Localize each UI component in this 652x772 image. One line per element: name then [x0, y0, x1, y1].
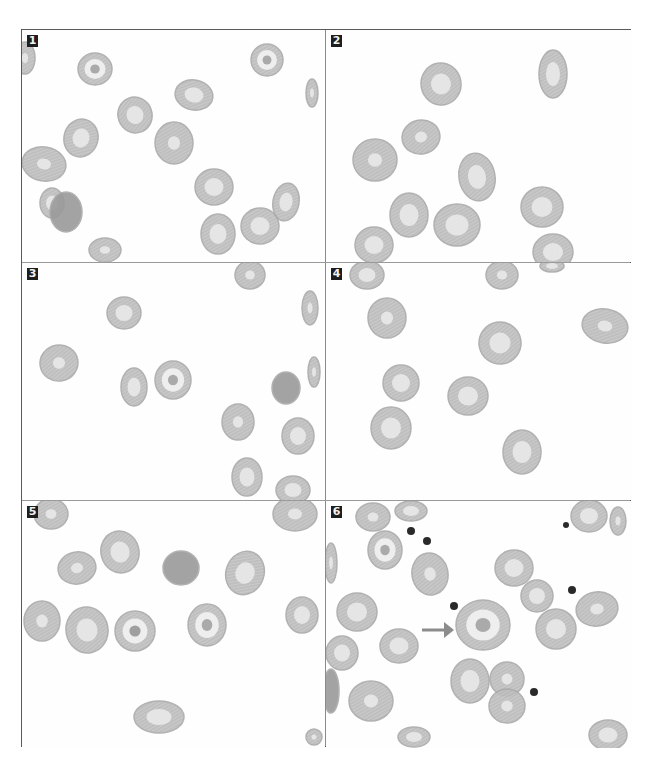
rbc-pale [113, 92, 157, 137]
rbc-pale [232, 458, 262, 496]
rbc-pale [173, 77, 216, 113]
rbc-pale [451, 659, 489, 703]
panel-label: 1 [27, 35, 38, 47]
rbc-edge [308, 357, 320, 387]
rbc-target [155, 361, 191, 399]
rbc-pale [371, 407, 411, 449]
rbc-pale [503, 430, 541, 474]
cells-layer [326, 501, 632, 748]
panel-1: 1 [22, 30, 325, 262]
rbc-dark [272, 372, 300, 404]
rbc-pale [476, 319, 525, 368]
rbc-normal [349, 681, 393, 721]
rbc-dark [163, 551, 199, 585]
panel-3: 3 [22, 263, 325, 500]
platelet [568, 586, 576, 594]
rbc-normal [409, 550, 452, 598]
rbc-pale [434, 204, 480, 246]
rbc-target [251, 44, 283, 76]
rbc-pale [195, 169, 233, 205]
rbc-normal [356, 503, 390, 531]
rbc-pale [350, 263, 384, 289]
rbc-normal [486, 263, 518, 289]
rbc-normal [22, 143, 69, 184]
micrograph-figure: 1 2 3 4 5 6 [21, 29, 631, 747]
rbc-pale [455, 150, 499, 204]
rbc-pale [448, 377, 488, 415]
rbc-pale [282, 418, 314, 454]
rbc-normal [155, 122, 193, 164]
rbc-pale [521, 187, 563, 227]
arrow-icon [422, 622, 454, 638]
rbc-normal [353, 139, 397, 181]
rbc-pale [571, 501, 607, 532]
rbc-pale [398, 727, 430, 747]
rbc-normal [235, 263, 265, 289]
rbc-edge [610, 507, 626, 535]
rbc-edge [302, 291, 318, 325]
rbc-normal [573, 589, 620, 630]
rbc-normal [579, 305, 630, 346]
platelet [530, 688, 538, 696]
rbc-normal [89, 238, 121, 262]
rbc-pale [355, 227, 393, 262]
rbc-normal [24, 601, 60, 641]
rbc-pale [326, 636, 358, 670]
rbc-normal [37, 342, 81, 384]
panel-label: 4 [331, 268, 342, 280]
rbc-dark [326, 669, 339, 713]
rbc-edge [306, 729, 322, 745]
rbc-target [188, 604, 226, 646]
cells-layer [326, 30, 632, 262]
panel-label: 6 [331, 506, 342, 518]
rbc-normal [222, 404, 254, 440]
cells-layer [326, 263, 632, 500]
rbc-normal [56, 549, 99, 587]
rbc-pale [418, 60, 465, 108]
rbc-pale [521, 580, 553, 612]
rbc-normal [368, 298, 406, 338]
rbc-pale [60, 115, 103, 161]
rbc-pale [241, 208, 279, 244]
rbc-target [78, 53, 112, 85]
rbc-dark [50, 192, 82, 232]
cells-layer [22, 30, 325, 262]
rbc-pale [337, 593, 377, 631]
rbc-edge [326, 543, 337, 583]
rbc-pale [276, 476, 310, 500]
panel-label: 5 [27, 506, 38, 518]
cells-layer [22, 263, 325, 500]
panel-label: 2 [331, 35, 342, 47]
platelet [450, 602, 458, 610]
rbc-target [368, 531, 402, 569]
rbc-darkring [115, 611, 155, 651]
rbc-pale [390, 193, 428, 237]
rbc-pale [540, 263, 564, 272]
rbc-pale [539, 50, 567, 98]
rbc-pale [286, 597, 318, 633]
platelet [423, 537, 431, 545]
rbc-pale [589, 720, 627, 748]
panel-4: 4 [326, 263, 632, 500]
rbc-pale [220, 546, 271, 600]
rbc-normal [34, 501, 68, 529]
panel-label: 3 [27, 268, 38, 280]
rbc-pale [536, 609, 576, 649]
rbc-normal [489, 689, 525, 723]
panel-6: 6 [326, 501, 632, 748]
panel-2: 2 [326, 30, 632, 262]
rbc-macro [456, 600, 510, 650]
rbc-pale [201, 214, 235, 254]
rbc-pale [96, 527, 144, 577]
rbc-pale [533, 234, 573, 262]
rbc-pale [62, 604, 111, 657]
rbc-edge [306, 79, 318, 107]
rbc-pale [121, 368, 147, 406]
rbc-pale [134, 701, 184, 733]
platelet [563, 522, 569, 528]
rbc-normal [399, 117, 442, 157]
rbc-pale [495, 550, 533, 586]
platelet [407, 527, 415, 535]
rbc-normal [273, 501, 317, 531]
rbc-pale [107, 297, 141, 329]
